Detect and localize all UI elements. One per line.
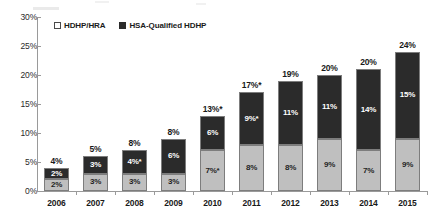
bar-segment-value-label: 3%	[168, 178, 179, 186]
bar-total-label: 13%*	[191, 105, 235, 114]
bar-segment-value-label: 2%	[51, 181, 62, 189]
legend-item-label: HSA-Qualified HDHP	[129, 21, 206, 30]
bar-segment-value-label: 15%	[400, 91, 415, 99]
bar-segment-hdhp-hra: 3%	[122, 174, 147, 191]
bar-segment-hdhp-hra: 8%	[239, 145, 264, 191]
legend-swatch-icon	[119, 22, 126, 29]
bar-segment-hsa-qualified-hdhp: 14%	[356, 69, 381, 150]
y-axis-tick-label-text: 5%	[5, 158, 37, 167]
bar-total-label: 20%	[308, 64, 352, 73]
bar-stack: 9%11%	[317, 75, 342, 191]
y-axis-tick-mark	[37, 17, 41, 18]
bar-segment-hsa-qualified-hdhp: 9%*	[239, 92, 264, 144]
bar-segment-hdhp-hra: 9%	[395, 139, 420, 191]
bar-stack: 2%2%	[44, 168, 69, 191]
chart-legend: HDHP/HRA HSA-Qualified HDHP	[54, 21, 206, 30]
y-axis-tick-label: 5%	[0, 158, 37, 167]
bar-segment-value-label: 11%	[283, 109, 298, 117]
y-axis-tick-label: 0%	[0, 187, 37, 196]
scan-artifact	[196, 3, 206, 5]
y-axis-tick-mark	[37, 133, 41, 134]
y-axis-tick-label-text: 20%	[5, 71, 37, 80]
legend-swatch-icon	[54, 22, 61, 29]
bar-segment-value-label: 9%	[324, 161, 335, 169]
y-axis-tick-label: 10%	[0, 129, 37, 138]
bar-stack: 3%3%	[83, 156, 108, 191]
bar-segment-value-label: 7%*	[205, 167, 219, 175]
bar-stack: 3%6%	[161, 139, 186, 191]
bar-segment-hsa-qualified-hdhp: 2%	[44, 168, 69, 180]
bar-segment-value-label: 8%	[285, 164, 296, 172]
bar-stack: 8%11%	[278, 81, 303, 191]
bar-segment-hsa-qualified-hdhp: 11%	[278, 81, 303, 145]
y-axis-tick-label-text: 25%	[5, 42, 37, 51]
bar-total-label: 5%	[74, 145, 118, 154]
bar-segment-value-label: 2%	[51, 170, 62, 178]
legend-item-hdhp-hra: HDHP/HRA	[54, 21, 105, 30]
bar-total-label: 8%	[113, 139, 157, 148]
x-axis-tick-label: 2013	[308, 198, 352, 208]
y-axis-tick-mark	[37, 191, 41, 192]
x-axis-tick-mark	[115, 191, 116, 195]
y-axis-tick-label-text: 10%	[5, 129, 37, 138]
y-axis-tick-label: 20%	[0, 71, 37, 80]
x-axis-tick-label: 2011	[230, 198, 274, 208]
x-axis-tick-label: 2006	[35, 198, 79, 208]
bar-stack: 9%15%	[395, 52, 420, 191]
bar-segment-value-label: 9%*	[244, 115, 258, 123]
bar-stack: 7%*6%	[200, 116, 225, 191]
y-axis-tick-label: 15%	[0, 100, 37, 109]
x-axis-tick-label: 2015	[386, 198, 430, 208]
x-axis-tick-label: 2008	[113, 198, 157, 208]
bar-stack: 8%9%*	[239, 92, 264, 191]
bar-segment-value-label: 3%	[90, 161, 101, 169]
bar-total-label: 24%	[386, 41, 430, 50]
y-axis-tick-label-text: 30%	[5, 13, 37, 22]
bar-segment-value-label: 7%	[363, 167, 374, 175]
y-axis-tick-mark	[37, 46, 41, 47]
y-axis-tick-label-text: 0%	[5, 187, 37, 196]
bar-segment-value-label: 6%	[207, 129, 218, 137]
y-axis-tick-label-text: 15%	[5, 100, 37, 109]
x-axis-tick-mark	[154, 191, 155, 195]
bar-total-label: 19%	[269, 70, 313, 79]
bar-segment-hsa-qualified-hdhp: 4%*	[122, 150, 147, 173]
bar-segment-value-label: 9%	[402, 161, 413, 169]
y-axis-tick-label: 25%	[0, 42, 37, 51]
bar-segment-hsa-qualified-hdhp: 15%	[395, 52, 420, 139]
x-axis-tick-mark	[271, 191, 272, 195]
x-axis-tick-label: 2014	[347, 198, 391, 208]
x-axis-tick-mark	[193, 191, 194, 195]
bar-total-label: 4%	[35, 157, 79, 166]
bar-segment-value-label: 6%	[168, 152, 179, 160]
bar-segment-value-label: 3%	[90, 178, 101, 186]
y-axis-tick-mark	[37, 104, 41, 105]
x-axis-tick-mark	[349, 191, 350, 195]
x-axis-tick-mark	[232, 191, 233, 195]
stacked-bar-chart: HDHP/HRA HSA-Qualified HDHP 0%5%10%15%20…	[0, 0, 434, 216]
bar-segment-hdhp-hra: 2%	[44, 179, 69, 191]
bar-segment-hdhp-hra: 3%	[83, 174, 108, 191]
legend-item-label: HDHP/HRA	[64, 21, 105, 30]
bar-segment-hsa-qualified-hdhp: 3%	[83, 156, 108, 173]
bar-total-label: 8%	[152, 128, 196, 137]
bar-segment-hdhp-hra: 8%	[278, 145, 303, 191]
bar-segment-hsa-qualified-hdhp: 11%	[317, 75, 342, 139]
x-axis-tick-mark	[427, 191, 428, 195]
x-axis-tick-label: 2009	[152, 198, 196, 208]
x-axis-tick-label: 2007	[74, 198, 118, 208]
legend-item-hsa-qualified-hdhp: HSA-Qualified HDHP	[119, 21, 206, 30]
bar-segment-hdhp-hra: 7%*	[200, 150, 225, 191]
x-axis-tick-mark	[76, 191, 77, 195]
scan-artifact	[95, 1, 109, 3]
bar-stack: 7%14%	[356, 69, 381, 191]
bar-total-label: 17%*	[230, 81, 274, 90]
bar-total-label: 20%	[347, 58, 391, 67]
bar-segment-hsa-qualified-hdhp: 6%	[161, 139, 186, 174]
bar-stack: 3%4%*	[122, 150, 147, 191]
bar-segment-value-label: 14%	[361, 106, 376, 114]
x-axis-tick-mark	[310, 191, 311, 195]
bar-segment-value-label: 3%	[129, 178, 140, 186]
bar-segment-hdhp-hra: 7%	[356, 150, 381, 191]
bar-segment-value-label: 8%	[246, 164, 257, 172]
